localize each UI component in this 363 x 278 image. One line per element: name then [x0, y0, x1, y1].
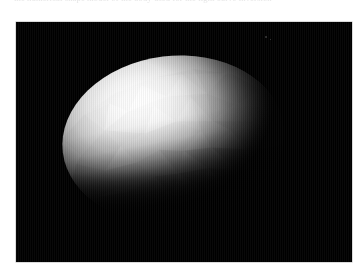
figure-panel — [16, 22, 352, 262]
caption-strip: the numerical shape model of the body us… — [0, 0, 363, 14]
render-stage — [16, 22, 352, 262]
background-speck-secondary-icon — [270, 39, 271, 40]
terminator-shading-overlay — [53, 43, 294, 235]
background-speck-icon — [265, 36, 267, 38]
shape-model-object — [62, 56, 284, 222]
ellipsoid-body — [53, 43, 294, 235]
figure-caption-clipped: the numerical shape model of the body us… — [14, 0, 272, 3]
